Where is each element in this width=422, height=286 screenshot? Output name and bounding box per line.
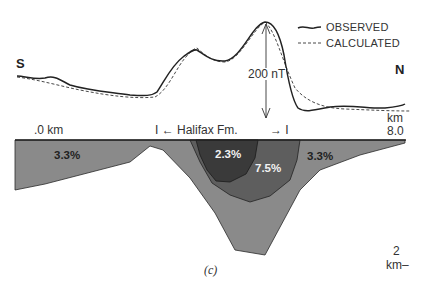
- legend-calculated-label: CALCULATED: [326, 38, 400, 49]
- legend-observed-sample: [298, 27, 321, 28]
- unit-middle-label: 7.5%: [255, 163, 281, 175]
- figure-caption: (c): [204, 264, 217, 276]
- depth-scale-value: 2: [393, 245, 400, 257]
- distance-start-label: .0 km: [34, 124, 63, 136]
- scale-bar-label: 200 nT: [247, 68, 286, 80]
- calculated-curve: [17, 22, 410, 111]
- distance-end-value: 8.0: [387, 125, 404, 137]
- depth-scale-unit: km–: [386, 259, 409, 271]
- legend-observed-label: OBSERVED: [326, 22, 389, 33]
- south-label: S: [16, 57, 25, 70]
- formation-label: I ← Halifax Fm.: [155, 124, 238, 136]
- unit-outer-left-label: 3.3%: [54, 150, 80, 162]
- magnetic-profile-figure: S N OBSERVED CALCULATED 200 nT .0 km km …: [0, 0, 422, 286]
- north-label: N: [395, 63, 404, 76]
- formation-end-marker: → I: [270, 124, 289, 136]
- unit-outer-right-label: 3.3%: [307, 151, 333, 163]
- unit-core-label: 2.3%: [215, 149, 241, 161]
- observed-curve: [17, 22, 405, 111]
- distance-end-unit: km: [387, 112, 403, 124]
